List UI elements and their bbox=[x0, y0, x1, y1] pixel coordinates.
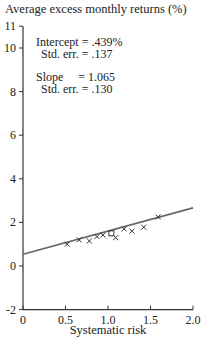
x-axis-label: Systematic risk bbox=[70, 323, 147, 337]
chart-title: Average excess monthly returns (%) bbox=[5, 2, 187, 16]
x-tick-label: 2.0 bbox=[186, 313, 201, 327]
axes: -202468101100.51.01.52.0 bbox=[4, 19, 201, 326]
y-tick-label: 0 bbox=[10, 259, 16, 273]
x-tick-label: 0 bbox=[20, 313, 26, 327]
annotations: Intercept = .439% Std. err. = .137 Slope… bbox=[36, 35, 122, 96]
y-tick-label: -2 bbox=[6, 303, 16, 317]
slope-std-err: Std. err. = .130 bbox=[41, 82, 112, 96]
data-point-x bbox=[141, 225, 146, 230]
y-tick-label: 6 bbox=[10, 128, 16, 142]
y-tick-label: 11 bbox=[4, 19, 16, 33]
intercept-std-err: Std. err. = .137 bbox=[41, 47, 112, 61]
y-tick-label: 8 bbox=[10, 85, 16, 99]
data-point-x bbox=[129, 229, 134, 234]
y-tick-label: 4 bbox=[10, 172, 16, 186]
y-tick-label: 2 bbox=[10, 215, 16, 229]
data-point-square bbox=[109, 231, 114, 236]
scatter-chart: Average excess monthly returns (%) -2024… bbox=[0, 0, 206, 339]
plot-area bbox=[23, 208, 193, 254]
data-point-x bbox=[87, 238, 92, 243]
regression-line bbox=[23, 208, 193, 254]
data-point-x bbox=[113, 235, 118, 240]
y-tick-label: 10 bbox=[4, 41, 16, 55]
